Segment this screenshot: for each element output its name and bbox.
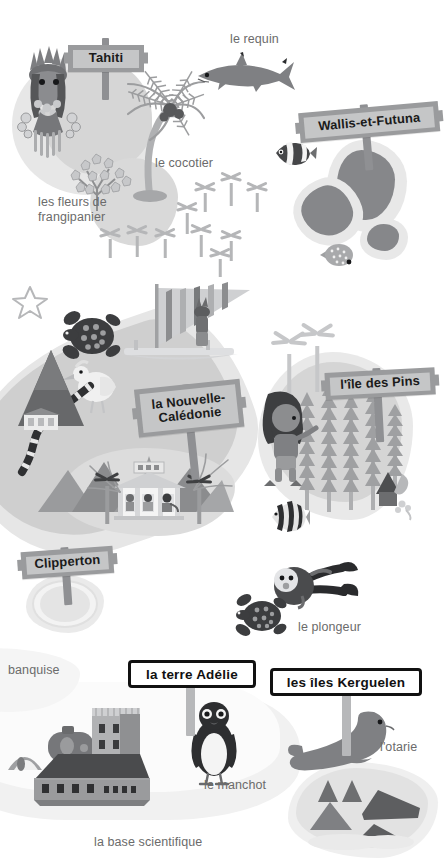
starfish bbox=[12, 285, 48, 319]
signpost-ear-left bbox=[132, 408, 140, 420]
signpost-label-nouvelle-caledonie: la Nouvelle- Calédonie bbox=[151, 390, 228, 426]
roadsign-plate: les îles Kerguelen bbox=[270, 668, 422, 696]
signpost-ear-right bbox=[432, 374, 440, 385]
palm-pavilion-right bbox=[188, 480, 210, 524]
palm-small bbox=[196, 186, 214, 212]
butterflyfish bbox=[318, 240, 356, 270]
signpost-board: l'île des Pins bbox=[325, 367, 436, 400]
caption-le-plongeur: le plongeur bbox=[298, 620, 361, 635]
outrigger-canoe bbox=[110, 278, 250, 368]
turtle-small bbox=[232, 590, 288, 640]
caption-l-otarie: l'otarie bbox=[380, 740, 417, 755]
signpost-ear-right bbox=[110, 553, 118, 564]
signpost-ile-des-pins[interactable]: l'île des Pins bbox=[320, 355, 442, 445]
signpost-label-ile-des-pins: l'île des Pins bbox=[340, 374, 420, 392]
village-hut bbox=[22, 408, 60, 430]
shark bbox=[190, 52, 298, 94]
signpost-ear-right bbox=[141, 53, 148, 64]
signpost-nouvelle-caledonie[interactable]: la Nouvelle- Calédonie bbox=[131, 365, 252, 486]
signpost-ear-right bbox=[238, 397, 246, 409]
caption-les-fleurs-de-frangipanier: les fleurs de frangipanier bbox=[38, 195, 107, 225]
roadsign-plate: la terre Adélie bbox=[128, 660, 256, 688]
alofi-island bbox=[367, 224, 399, 251]
roadsign-post bbox=[342, 690, 351, 756]
palm-small bbox=[211, 252, 229, 277]
pins-hut bbox=[362, 460, 412, 520]
islander-child bbox=[256, 388, 316, 490]
palm-small bbox=[248, 186, 266, 212]
angelfish bbox=[268, 500, 308, 534]
caption-le-requin: le requin bbox=[230, 32, 279, 47]
palm-small bbox=[101, 232, 119, 258]
caption-la-banquise: banquise bbox=[8, 663, 60, 678]
signpost-board: Clipperton bbox=[21, 546, 115, 579]
signpost-ear-left bbox=[321, 380, 329, 391]
signpost-label-terre-adelie: la terre Adélie bbox=[146, 667, 238, 682]
caption-le-cocotier: le cocotier bbox=[155, 156, 213, 171]
clownfish bbox=[272, 140, 316, 166]
signpost-clipperton[interactable]: Clipperton bbox=[16, 534, 120, 609]
palm-small bbox=[156, 232, 174, 258]
signpost-ear-left bbox=[17, 560, 25, 571]
caption-la-base-scientifique: la base scientifique bbox=[94, 835, 202, 850]
signpost-ear-left bbox=[295, 122, 303, 134]
palm-small bbox=[192, 228, 210, 257]
palm-small bbox=[128, 229, 146, 257]
signpost-wallis-et-futuna[interactable]: Wallis-et-Futuna bbox=[293, 86, 447, 177]
signpost-label-clipperton: Clipperton bbox=[34, 553, 101, 572]
signpost-label-iles-kerguelen: les îles Kerguelen bbox=[287, 675, 405, 690]
signpost-terre-adelie[interactable]: la terre Adélie bbox=[128, 660, 258, 736]
signpost-ear-right bbox=[435, 110, 443, 122]
kerguelen-rocks bbox=[300, 768, 430, 850]
signpost-board: la Nouvelle- Calédonie bbox=[134, 379, 244, 438]
signpost-ear-left bbox=[64, 53, 71, 64]
caption-le-manchot: le manchot bbox=[204, 778, 266, 793]
signpost-label-tahiti: Tahiti bbox=[89, 51, 123, 65]
signpost-label-wallis: Wallis-et-Futuna bbox=[318, 111, 421, 134]
palm-small bbox=[222, 176, 240, 206]
roadsign-post bbox=[186, 682, 195, 736]
signpost-board: Wallis-et-Futuna bbox=[298, 101, 440, 143]
palm-pavilion-left bbox=[96, 478, 118, 524]
